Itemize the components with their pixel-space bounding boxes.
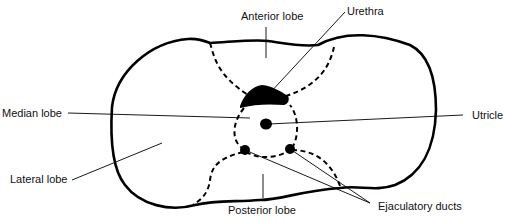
- posterior-left-boundary: [193, 152, 243, 205]
- urethra-leader: [268, 12, 345, 95]
- lateral-lobe-leader: [72, 143, 162, 180]
- urethra-label: Urethra: [347, 5, 385, 17]
- anterior-left-boundary: [210, 43, 248, 95]
- gland-outline: [111, 35, 436, 207]
- anterior-right-boundary: [286, 47, 334, 96]
- ejaculatory-duct-leader-left: [245, 150, 370, 203]
- lateral-lobe-label: Lateral lobe: [10, 173, 68, 185]
- median-lobe-leader: [68, 113, 250, 118]
- posterior-lobe-label: Posterior lobe: [228, 204, 296, 216]
- utricle-label: Utricle: [472, 109, 503, 121]
- urethra-shape: [240, 85, 289, 108]
- anterior-lobe-label: Anterior lobe: [241, 10, 303, 22]
- ejaculatory-ducts-label: Ejaculatory ducts: [378, 200, 462, 212]
- median-lobe-label: Median lobe: [2, 107, 62, 119]
- prostate-lobes-diagram: Anterior lobe Urethra Median lobe Utricl…: [0, 0, 506, 223]
- ejaculatory-duct-leader-right: [290, 149, 370, 203]
